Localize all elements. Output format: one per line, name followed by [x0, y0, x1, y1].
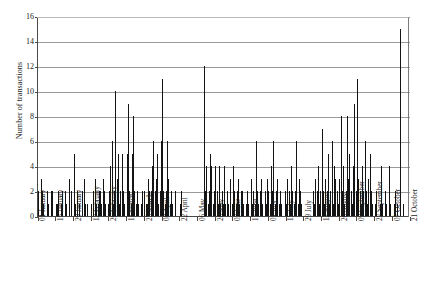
x-tick-label: 08 April [164, 197, 172, 221]
y-tick-label: 6 [30, 138, 34, 146]
bar [66, 204, 67, 217]
bar [262, 204, 263, 217]
x-tick-label: 03 June [235, 199, 243, 221]
x-tick-label: 17 June [253, 199, 261, 221]
bar [228, 204, 229, 217]
y-tick-label: 8 [30, 113, 34, 121]
x-tick-label: 26 August [342, 192, 350, 221]
bar [390, 204, 391, 217]
x-tick-label: 25 March [147, 193, 155, 221]
bar [243, 204, 244, 217]
x-tick-label: 01 July [271, 200, 279, 221]
bar [372, 204, 373, 217]
y-tick-label: 14 [26, 38, 34, 46]
bar [105, 204, 106, 217]
x-tick-label: 23 September [377, 181, 385, 221]
x-tick-label: 12 February [94, 186, 102, 221]
x-tick-label: 15 July [288, 200, 296, 221]
x-tick-label: 11 March [129, 194, 137, 221]
bar [301, 204, 302, 217]
x-tick-label: 06 May [200, 199, 208, 221]
bar [138, 204, 139, 217]
bar [386, 204, 387, 217]
x-tick-label: 29 January [76, 190, 84, 221]
x-tick-label: 20 May [218, 199, 226, 221]
x-tick-label: 12 August [324, 192, 332, 221]
bar [71, 191, 72, 216]
x-axis-labels: 01 January15 January29 January12 Februar… [37, 221, 409, 285]
bar [281, 204, 282, 217]
bar [248, 204, 249, 217]
bar [85, 204, 86, 217]
bar [403, 204, 404, 217]
bar [87, 204, 88, 217]
bar [175, 191, 176, 216]
x-tick-label: 15 January [58, 190, 66, 221]
x-tick-label: 01 January [40, 190, 48, 221]
y-tick-label: 12 [26, 63, 34, 71]
y-tick-label: 2 [30, 188, 34, 196]
bar [172, 204, 173, 217]
x-tick-label: 22 April [182, 197, 190, 221]
bar [48, 204, 49, 217]
x-tick-label: 09 September [359, 181, 367, 221]
bar [52, 191, 53, 216]
x-tick-label: 07 October [395, 189, 403, 221]
bar [124, 204, 125, 217]
y-tick-label: 16 [26, 13, 34, 21]
y-axis-label: Number of transactions [15, 41, 24, 161]
y-tick-label: 0 [30, 213, 34, 221]
x-tick-label: 21 October [412, 189, 420, 221]
y-tick-label: 10 [26, 88, 34, 96]
x-tick-label: 29 July [306, 200, 314, 221]
x-tick-label: 26 February [111, 186, 119, 221]
bar [142, 191, 143, 216]
bar [69, 179, 70, 217]
chart-figure: Number of transactions 0246810121416 01 … [0, 0, 426, 286]
y-tick-label: 4 [30, 163, 34, 171]
